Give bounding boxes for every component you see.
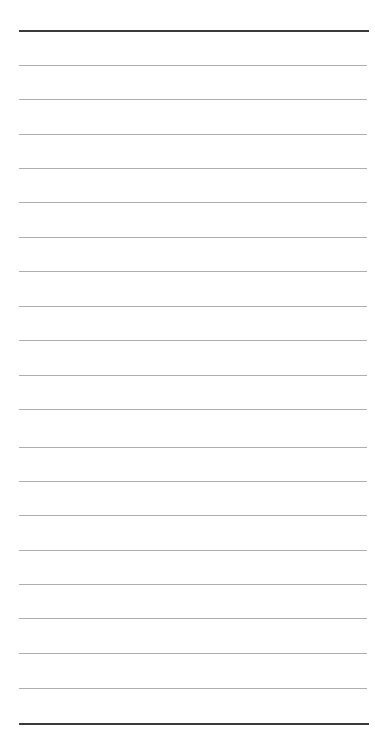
writing-row-1[interactable] bbox=[19, 31, 367, 65]
writing-row-17[interactable] bbox=[19, 585, 367, 619]
writing-row-15[interactable] bbox=[19, 516, 367, 550]
writing-row-6[interactable] bbox=[19, 203, 367, 237]
bottom-border-rule bbox=[19, 723, 369, 725]
writing-row-11[interactable] bbox=[19, 376, 367, 410]
writing-row-20[interactable] bbox=[19, 689, 367, 723]
writing-row-4[interactable] bbox=[19, 135, 367, 169]
writing-row-19[interactable] bbox=[19, 654, 367, 688]
writing-row-9[interactable] bbox=[19, 307, 367, 341]
writing-row-7[interactable] bbox=[19, 238, 367, 272]
writing-row-16[interactable] bbox=[19, 551, 367, 585]
writing-row-13[interactable] bbox=[19, 448, 367, 482]
writing-row-12[interactable] bbox=[19, 410, 367, 444]
writing-row-2[interactable] bbox=[19, 66, 367, 100]
writing-row-18[interactable] bbox=[19, 619, 367, 653]
writing-row-10[interactable] bbox=[19, 341, 367, 375]
writing-row-14[interactable] bbox=[19, 482, 367, 516]
writing-row-5[interactable] bbox=[19, 169, 367, 203]
writing-row-8[interactable] bbox=[19, 272, 367, 306]
writing-row-3[interactable] bbox=[19, 100, 367, 134]
notepad-page bbox=[0, 0, 375, 751]
